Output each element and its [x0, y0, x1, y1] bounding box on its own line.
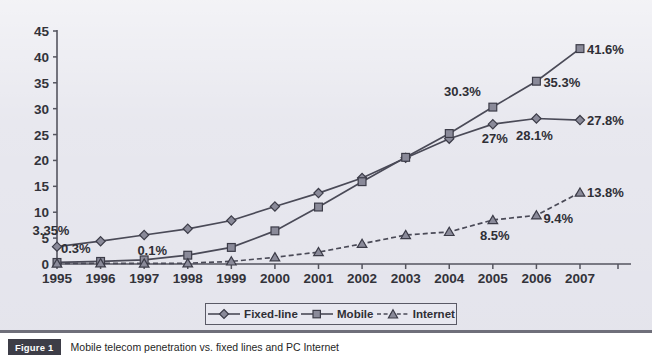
- data-point-triangle: [357, 239, 367, 247]
- square-marker-icon: [300, 308, 334, 320]
- data-label: 9.4%: [543, 211, 573, 226]
- x-axis-tick-label: 2007: [565, 271, 595, 286]
- data-point-triangle: [575, 188, 585, 196]
- y-axis-tick-label: 20: [34, 153, 49, 168]
- x-axis-tick-label: 1999: [216, 271, 246, 286]
- data-point-diamond: [270, 202, 279, 211]
- data-label: 30.3%: [444, 84, 481, 99]
- x-axis-tick-label: 2001: [303, 271, 334, 286]
- data-label: 8.5%: [480, 228, 510, 243]
- figure-caption-text: Mobile telecom penetration vs. fixed lin…: [71, 336, 339, 358]
- data-point-triangle: [444, 227, 454, 235]
- x-axis-tick-label: 1998: [173, 271, 204, 286]
- x-axis-tick-label: 1996: [86, 271, 117, 286]
- data-label: 27%: [482, 131, 508, 146]
- legend-item-mobile[interactable]: Mobile: [300, 308, 373, 320]
- data-point-square: [315, 203, 323, 211]
- x-axis-tick-label: 2000: [260, 271, 290, 286]
- data-label: 0.3%: [61, 241, 91, 256]
- y-axis-tick-label: 0: [41, 257, 49, 272]
- legend-label-mobile: Mobile: [337, 308, 373, 320]
- data-point-square: [576, 45, 584, 53]
- x-axis-tick-label: 2006: [521, 271, 552, 286]
- y-axis-tick-label: 10: [34, 205, 49, 220]
- diamond-marker-icon: [207, 308, 241, 320]
- figure-number-badge: Figure 1: [8, 339, 61, 355]
- data-point-diamond: [140, 230, 149, 239]
- data-point-diamond: [488, 120, 497, 129]
- data-label: 3.35%: [33, 223, 70, 238]
- data-point-diamond: [532, 114, 541, 123]
- data-label: 27.8%: [587, 113, 624, 128]
- data-point-triangle: [183, 259, 193, 267]
- figure-caption: Figure 1 Mobile telecom penetration vs. …: [0, 336, 652, 358]
- data-point-square: [489, 103, 497, 111]
- y-axis-tick-label: 25: [34, 128, 50, 143]
- x-axis-tick-label: 1995: [42, 271, 73, 286]
- legend-label-internet: Internet: [413, 308, 455, 320]
- y-axis-tick-label: 40: [34, 50, 49, 65]
- x-axis-tick-label: 2004: [434, 271, 465, 286]
- legend-label-fixed-line: Fixed-line: [244, 308, 298, 320]
- line-chart: 0510152025303540451995199619971998199920…: [0, 0, 652, 300]
- data-point-diamond: [314, 188, 323, 197]
- y-axis-tick-label: 15: [34, 179, 50, 194]
- y-axis-tick-label: 45: [34, 24, 50, 39]
- chart-plot-area: 0510152025303540451995199619971998199920…: [0, 0, 652, 300]
- data-point-square: [271, 227, 279, 235]
- x-axis-tick-label: 2005: [478, 271, 509, 286]
- data-point-square: [227, 244, 235, 252]
- y-axis-tick-label: 30: [34, 102, 49, 117]
- x-axis-tick-label: 2003: [391, 271, 422, 286]
- y-axis-tick-label: 35: [34, 76, 50, 91]
- data-point-square: [445, 130, 453, 138]
- data-label: 0.1%: [137, 243, 167, 258]
- data-point-diamond: [227, 216, 236, 225]
- caption-divider: [0, 330, 652, 333]
- data-label: 35.3%: [543, 75, 580, 90]
- x-axis-tick-label: 1997: [129, 271, 159, 286]
- data-point-square: [402, 153, 410, 161]
- data-point-diamond: [575, 115, 584, 124]
- data-point-square: [358, 178, 366, 186]
- data-label: 28.1%: [516, 128, 553, 143]
- triangle-marker-icon: [376, 308, 410, 320]
- x-axis-tick-label: 2002: [347, 271, 377, 286]
- data-point-square: [533, 77, 541, 85]
- data-point-diamond: [183, 224, 192, 233]
- data-label: 41.6%: [587, 42, 624, 57]
- legend-item-fixed-line[interactable]: Fixed-line: [207, 308, 298, 320]
- data-point-triangle: [270, 253, 280, 261]
- data-point-diamond: [96, 237, 105, 246]
- figure-container: 0510152025303540451995199619971998199920…: [0, 0, 652, 358]
- chart-legend: Fixed-line Mobile Internet: [205, 303, 457, 325]
- data-label: 13.8%: [587, 185, 624, 200]
- legend-item-internet[interactable]: Internet: [376, 308, 455, 320]
